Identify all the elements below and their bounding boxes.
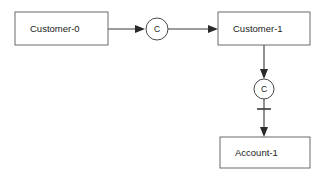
connector-customer1-to-relationship-vertical (260, 45, 268, 79)
entity-account-1[interactable]: Account-1 (220, 137, 310, 168)
relationship-node-vertical[interactable]: C (254, 79, 274, 99)
connector-customer0-to-relationship (108, 25, 145, 33)
arrow-head-icon (135, 25, 145, 33)
er-diagram: Customer-0 Customer-1 Account-1 C C (0, 0, 329, 177)
arrow-head-icon (260, 69, 268, 79)
connector-relationship-to-customer1 (168, 25, 218, 33)
relationship-node-horizontal[interactable]: C (146, 18, 168, 40)
relationship-label: C (261, 84, 267, 94)
diagram-canvas: Customer-0 Customer-1 Account-1 C C (0, 0, 329, 177)
connector-relationship-to-account1 (260, 99, 268, 137)
entity-label: Customer-0 (30, 23, 80, 34)
entity-customer-0[interactable]: Customer-0 (15, 12, 108, 45)
arrow-head-icon (208, 25, 218, 33)
entity-label: Account-1 (235, 147, 278, 158)
entity-customer-1[interactable]: Customer-1 (218, 12, 310, 45)
entity-label: Customer-1 (233, 23, 283, 34)
arrow-head-icon (260, 127, 268, 137)
relationship-label: C (154, 24, 160, 34)
